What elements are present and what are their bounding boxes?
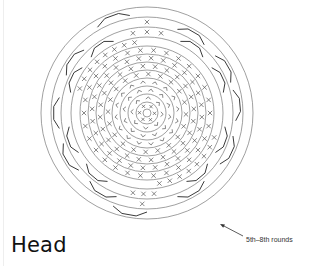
stitch-symbols [78, 20, 217, 206]
rounds-annotation: 5th–8th rounds [246, 236, 293, 243]
diagram-title: Head [11, 233, 67, 257]
crochet-chart [0, 0, 314, 266]
arrow-icon [220, 224, 243, 236]
round-rings [41, 7, 253, 219]
increase-brackets [54, 14, 241, 216]
